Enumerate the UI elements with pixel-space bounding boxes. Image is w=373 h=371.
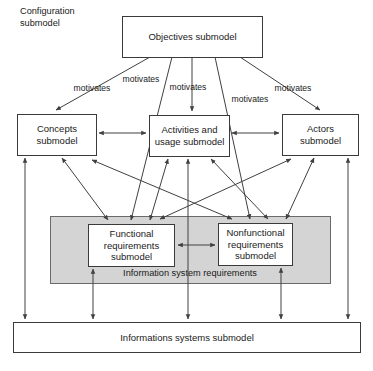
configuration-submodel-title: Configuration submodel (20, 6, 75, 28)
configuration-submodel-title-line1: Configuration (20, 6, 75, 16)
actors-submodel-label-line2: submodel (300, 135, 341, 146)
concepts-submodel-box[interactable]: Concepts submodel (18, 115, 97, 156)
concepts-submodel-label-line1: Concepts (37, 123, 77, 134)
edge-concepts-nonfunctional (92, 160, 232, 219)
configuration-submodel-diagram: Information system requirements (0, 0, 373, 371)
nonfunctional-requirements-submodel-box[interactable]: Nonfunctional requirements submodel (219, 224, 293, 266)
actors-submodel-label-line1: Actors (307, 123, 334, 134)
edge-concepts-functional (62, 158, 108, 220)
actors-submodel-box[interactable]: Actors submodel (283, 115, 359, 156)
nonfunctional-requirements-label-line3: submodel (235, 250, 276, 261)
functional-requirements-label-line1: Functional (110, 228, 154, 239)
activities-submodel-label-line2: usage submodel (155, 136, 225, 147)
configuration-submodel-title-line2: submodel (20, 18, 60, 28)
functional-requirements-submodel-box[interactable]: Functional requirements submodel (89, 225, 175, 267)
motivates-label-actors: motivates (275, 83, 312, 93)
edge-activities-nonfunctional (211, 159, 268, 219)
motivates-label-nonfunctional: motivates (232, 94, 269, 104)
activities-submodel-label-line1: Activities and (162, 124, 218, 135)
objectives-submodel-box[interactable]: Objectives submodel (123, 17, 263, 58)
nonfunctional-requirements-label-line1: Nonfunctional (226, 227, 284, 238)
functional-requirements-label-line3: submodel (111, 251, 152, 262)
informations-systems-submodel-label: Informations systems submodel (120, 332, 254, 343)
motivates-label-concepts: motivates (74, 83, 111, 93)
nonfunctional-requirements-label-line2: requirements (228, 239, 284, 250)
information-system-requirements-label: Information system requirements (123, 268, 257, 278)
edge-activities-functional (150, 159, 168, 220)
concepts-submodel-label-line2: submodel (36, 135, 77, 146)
diagram-canvas: Information system requirements (0, 0, 373, 371)
motivates-label-functional: motivates (123, 74, 160, 84)
edge-actors-nonfunctional (286, 158, 314, 219)
node-layer: Objectives submodel Concepts submodel Ac… (14, 17, 361, 353)
informations-systems-submodel-box[interactable]: Informations systems submodel (14, 323, 361, 353)
motivates-label-activities: motivates (170, 82, 207, 92)
functional-requirements-label-line2: requirements (104, 240, 160, 251)
objectives-submodel-label: Objectives submodel (148, 31, 236, 42)
edge-actors-functional (160, 159, 291, 219)
activities-and-usage-submodel-box[interactable]: Activities and usage submodel (150, 116, 230, 157)
